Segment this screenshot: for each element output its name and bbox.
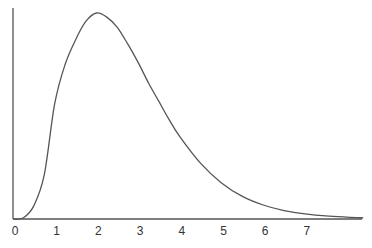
x-tick-label: 2	[95, 224, 102, 238]
x-tick-label: 7	[304, 224, 311, 238]
x-tick-label: 6	[262, 224, 269, 238]
x-tick-label: 0	[12, 224, 19, 238]
x-tick-label: 5	[220, 224, 227, 238]
x-tick-label: 4	[178, 224, 185, 238]
x-tick-label: 3	[137, 224, 144, 238]
x-tick-label: 1	[53, 224, 60, 238]
x-tick-labels: 01234567	[12, 224, 311, 238]
density-chart: 01234567	[0, 0, 372, 248]
density-curve	[13, 13, 363, 219]
